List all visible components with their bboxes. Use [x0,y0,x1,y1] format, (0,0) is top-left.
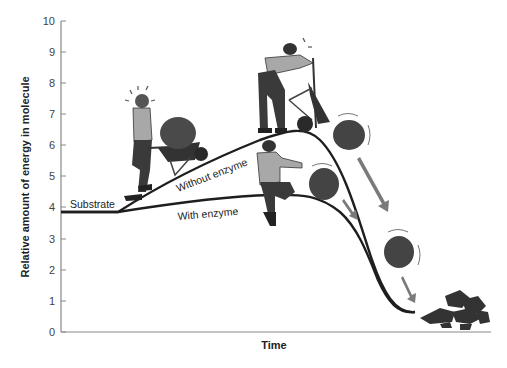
substrate-label: Substrate [70,198,115,210]
y-tick-4: 4 [49,201,55,213]
y-tick-2: 2 [49,264,55,276]
broken-rock-pile-illustration [420,290,490,330]
boulder-illustrations [309,114,420,269]
y-axis-title: Relative amount of energy in molecule [19,76,31,277]
with-enzyme-label: With enzyme [177,205,239,222]
person-at-peak-illustration [258,38,330,133]
energy-diagram: 0 1 2 3 4 5 6 7 8 9 10 Relative amount o… [0,0,507,368]
y-tick-6: 6 [49,139,55,151]
y-tick-1: 1 [49,295,55,307]
y-axis: 0 1 2 3 4 5 6 7 8 9 10 [43,15,66,338]
y-tick-3: 3 [49,233,55,245]
x-axis-title: Time [261,339,286,351]
y-tick-0: 0 [49,326,55,338]
y-tick-7: 7 [49,108,55,120]
y-tick-5: 5 [49,170,55,182]
y-tick-10: 10 [43,15,55,27]
person-sitting-illustration [257,140,302,226]
y-tick-9: 9 [49,46,55,58]
y-tick-8: 8 [49,77,55,89]
